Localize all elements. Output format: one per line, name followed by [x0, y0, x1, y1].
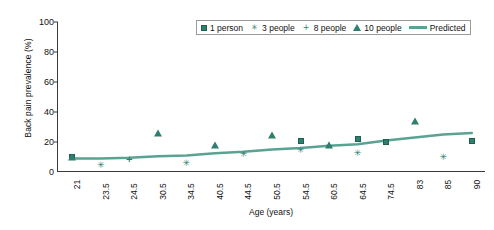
data-point-triangle — [268, 131, 276, 138]
x-tick-label: 24.5 — [129, 175, 139, 192]
square-marker-icon — [201, 25, 207, 31]
x-tick-label: 74.5 — [386, 175, 396, 192]
predicted-line — [58, 22, 486, 172]
x-tick-label: 83 — [415, 175, 425, 184]
y-tick-mark — [54, 22, 58, 23]
y-tick-label: 60 — [44, 77, 54, 87]
plot-area: 020406080100 2123.524.530.534.540.544.55… — [57, 22, 485, 172]
y-tick-label: 80 — [44, 47, 54, 57]
data-point-star — [439, 153, 447, 162]
legend-entry: 1 person — [201, 23, 243, 33]
data-point-star — [297, 145, 305, 154]
y-tick-mark — [54, 82, 58, 83]
y-tick-label: 0 — [49, 167, 54, 177]
x-tick-label: 64.5 — [358, 175, 368, 192]
legend-entry: 10 people — [353, 23, 401, 33]
data-point-triangle — [211, 142, 219, 149]
x-axis-title: Age (years) — [57, 207, 485, 217]
data-point-square — [298, 138, 304, 144]
chart-figure: Back pain prevalence (%) 020406080100 21… — [0, 0, 494, 230]
data-point-star — [354, 148, 362, 157]
x-tick-label: 34.5 — [186, 175, 196, 192]
legend-entry: +8 people — [302, 23, 347, 33]
x-tick-label: 50.5 — [272, 175, 282, 192]
data-point-plus — [126, 154, 134, 163]
data-point-square — [383, 139, 389, 145]
x-tick-label: 54.5 — [301, 175, 311, 192]
y-tick-mark — [54, 52, 58, 53]
x-tick-label: 85 — [443, 175, 453, 184]
x-tick-label: 21 — [72, 175, 82, 184]
legend-label: 1 person — [210, 23, 243, 33]
data-point-square — [469, 138, 475, 144]
x-tick-label: 90 — [472, 175, 482, 184]
data-point-triangle — [325, 142, 333, 149]
legend-label: Predicted — [430, 23, 466, 33]
data-point-star — [183, 159, 191, 168]
legend-label: 10 people — [364, 23, 401, 33]
data-point-triangle — [411, 118, 419, 125]
y-axis-title: Back pain prevalence (%) — [23, 8, 33, 168]
y-tick-label: 40 — [44, 107, 54, 117]
legend-entry: Predicted — [409, 23, 466, 33]
data-point-triangle — [154, 130, 162, 137]
triangle-marker-icon — [353, 24, 361, 31]
x-tick-label: 23.5 — [101, 175, 111, 192]
y-tick-mark — [54, 142, 58, 143]
plus-marker-icon: + — [302, 24, 311, 32]
x-tick-label: 30.5 — [158, 175, 168, 192]
data-point-triangle — [68, 154, 76, 161]
legend-label: 8 people — [314, 23, 347, 33]
y-tick-label: 100 — [39, 17, 54, 27]
data-point-star — [240, 150, 248, 159]
x-tick-label: 44.5 — [243, 175, 253, 192]
legend-label: 3 people — [262, 23, 295, 33]
y-tick-label: 20 — [44, 137, 54, 147]
legend-entry: ✳3 people — [250, 23, 295, 33]
line-swatch-icon — [409, 26, 427, 29]
star-marker-icon: ✳ — [250, 24, 259, 32]
x-tick-label: 40.5 — [215, 175, 225, 192]
chart-legend: 1 person✳3 people+8 people10 peoplePredi… — [196, 20, 471, 35]
data-point-star — [97, 160, 105, 169]
data-point-square — [355, 136, 361, 142]
y-tick-mark — [54, 112, 58, 113]
x-tick-label: 60.5 — [329, 175, 339, 192]
